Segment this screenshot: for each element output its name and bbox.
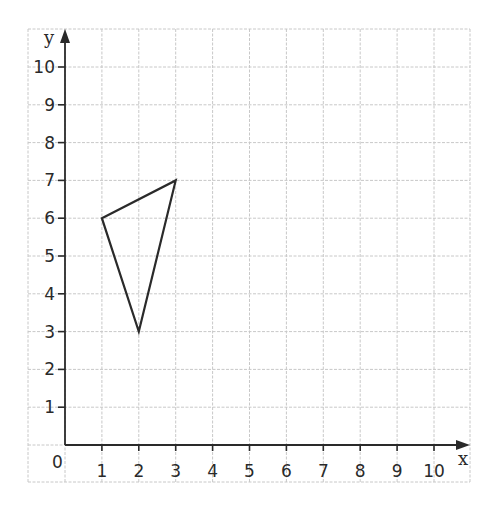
axes bbox=[60, 29, 470, 450]
axis-ticks: 1234567891012345678910 bbox=[33, 57, 444, 481]
y-tick-label: 7 bbox=[44, 170, 55, 190]
x-tick-label: 6 bbox=[281, 461, 292, 481]
x-tick-label: 5 bbox=[244, 461, 255, 481]
y-tick-label: 2 bbox=[44, 359, 55, 379]
x-axis-label: x bbox=[458, 448, 468, 469]
y-tick-label: 9 bbox=[44, 95, 55, 115]
y-axis-label: y bbox=[43, 27, 55, 48]
y-tick-label: 8 bbox=[44, 133, 55, 153]
y-axis-arrow-icon bbox=[60, 29, 70, 43]
plot-area: 1234567891012345678910 x y 0 bbox=[0, 0, 499, 515]
x-tick-label: 3 bbox=[170, 461, 181, 481]
x-tick-label: 8 bbox=[355, 461, 366, 481]
grid-lines bbox=[28, 29, 470, 482]
x-tick-label: 7 bbox=[318, 461, 329, 481]
x-tick-label: 1 bbox=[96, 461, 107, 481]
y-tick-label: 1 bbox=[44, 397, 55, 417]
y-tick-label: 4 bbox=[44, 284, 55, 304]
origin-label: 0 bbox=[52, 452, 63, 472]
x-tick-label: 9 bbox=[392, 461, 403, 481]
y-tick-label: 10 bbox=[33, 57, 55, 77]
y-tick-label: 6 bbox=[44, 208, 55, 228]
x-tick-label: 2 bbox=[133, 461, 144, 481]
x-tick-label: 10 bbox=[423, 461, 445, 481]
x-tick-label: 4 bbox=[207, 461, 218, 481]
y-tick-label: 3 bbox=[44, 322, 55, 342]
y-tick-label: 5 bbox=[44, 246, 55, 266]
coordinate-grid-diagram: 1234567891012345678910 x y 0 bbox=[0, 0, 499, 515]
